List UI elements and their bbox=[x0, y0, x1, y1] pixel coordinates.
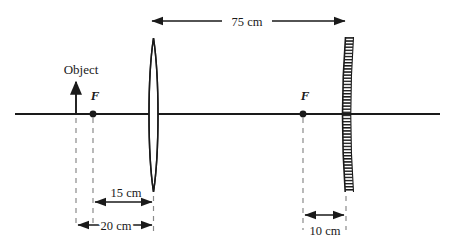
dimension-15cm-label: 15 cm bbox=[111, 186, 142, 200]
focal-point-left: F bbox=[90, 88, 100, 117]
dimension-75cm-label: 75 cm bbox=[232, 15, 263, 29]
dimension-20cm: 20 cm bbox=[78, 219, 152, 233]
dimension-15cm: 15 cm bbox=[95, 186, 152, 202]
optics-canvas: 75 cm Object F F bbox=[0, 0, 449, 250]
concave-mirror bbox=[338, 33, 360, 198]
object-label: Object bbox=[64, 62, 99, 77]
dimension-10cm-label: 10 cm bbox=[310, 224, 341, 238]
focal-point-left-label: F bbox=[90, 88, 100, 103]
focal-point-left-dot bbox=[90, 111, 97, 118]
focal-point-right-label: F bbox=[300, 88, 310, 103]
focal-point-right: F bbox=[300, 88, 310, 117]
dimension-20cm-label: 20 cm bbox=[101, 219, 132, 233]
dimension-75cm: 75 cm bbox=[152, 15, 345, 29]
mirror-backing-hatch bbox=[338, 33, 360, 198]
optics-diagram: 75 cm Object F F bbox=[0, 0, 449, 250]
dimension-10cm: 10 cm bbox=[305, 215, 344, 238]
converging-lens bbox=[149, 38, 158, 192]
focal-point-right-dot bbox=[300, 111, 307, 118]
